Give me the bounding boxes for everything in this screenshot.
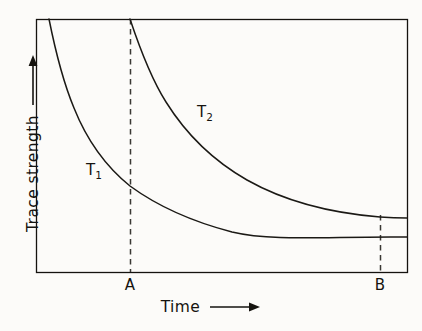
curve-t1 [49, 19, 407, 238]
figure-root: Trace strength Time A B T1 T2 [0, 0, 422, 331]
plot-frame [37, 20, 408, 273]
curve-t2 [130, 19, 407, 218]
plot-canvas [0, 0, 422, 331]
